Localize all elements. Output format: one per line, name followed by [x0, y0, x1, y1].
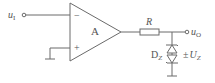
circuit-diagram: uI − + A R uO DZ ±UZ [0, 0, 215, 83]
zener-voltage-label: ±UZ [183, 49, 201, 62]
output-terminal-circle [185, 30, 189, 34]
zener-diodes: DZ ±UZ [151, 32, 201, 76]
noninverting-input-sign: + [74, 42, 80, 53]
resistor-icon [140, 29, 159, 35]
zener-diode-upper-icon [167, 45, 177, 53]
input-label: uI [8, 9, 16, 22]
op-amp: − + A [70, 3, 121, 61]
output-path: R uO [121, 16, 201, 39]
input-terminal-circle [22, 13, 26, 17]
ground-wire [50, 48, 70, 59]
inverting-input-sign: − [74, 10, 80, 21]
zener-label: DZ [151, 49, 162, 62]
noninverting-ground [45, 48, 70, 59]
output-label: uO [191, 26, 201, 39]
zener-diode-lower-icon [167, 55, 177, 63]
input-terminal: uI [8, 9, 70, 22]
op-amp-label: A [91, 25, 99, 37]
resistor-label: R [145, 16, 152, 27]
